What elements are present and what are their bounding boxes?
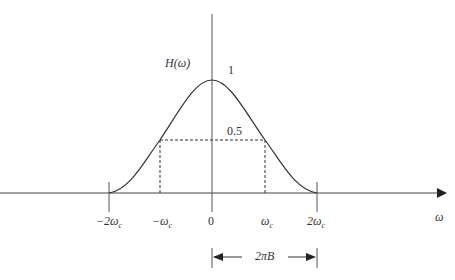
arrow-right-icon — [306, 253, 316, 261]
x-axis-arrow-icon — [437, 188, 447, 198]
tick-label-pos-2wc: 2ωc — [307, 214, 325, 230]
tick-label-zero: 0 — [208, 214, 214, 229]
tick-label-pos-wc: ωc — [261, 214, 273, 230]
tick-label-neg-2wc: −2ωc — [96, 214, 122, 230]
function-label: H(ω) — [165, 56, 190, 71]
tick-label-neg-wc: −ωc — [152, 214, 172, 230]
half-label: 0.5 — [227, 124, 242, 139]
filter-response-diagram — [0, 0, 455, 280]
response-curve — [109, 80, 317, 193]
arrow-left-icon — [213, 253, 223, 261]
peak-label: 1 — [228, 63, 234, 78]
bandwidth-label: 2πB — [255, 249, 274, 264]
x-axis-label: ω — [435, 210, 443, 225]
